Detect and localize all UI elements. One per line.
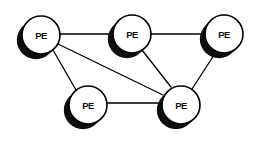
node-pe2[interactable]: PE (113, 15, 151, 53)
node-pe1[interactable]: PE (22, 16, 60, 54)
node-label-pe4: PE (82, 100, 94, 111)
node-pe3[interactable]: PE (205, 15, 243, 53)
node-pe5[interactable]: PE (162, 86, 200, 124)
node-label-pe5: PE (175, 100, 187, 111)
network-topology-diagram: PE PE PE PE PE (0, 0, 264, 144)
topology-graph-svg: PE PE PE PE PE (0, 0, 264, 144)
node-label-pe1: PE (35, 30, 47, 41)
node-label-pe2: PE (126, 29, 138, 40)
node-label-pe3: PE (218, 29, 230, 40)
node-pe4[interactable]: PE (69, 86, 107, 124)
